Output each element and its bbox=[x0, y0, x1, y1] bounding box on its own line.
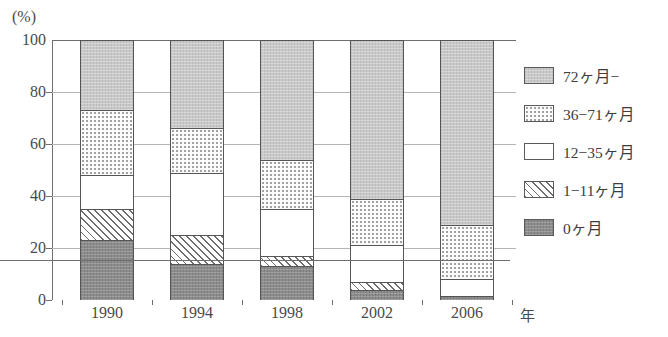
y-tick-label: 60 bbox=[2, 136, 46, 152]
bar-segment-2006-3 bbox=[441, 225, 493, 280]
bar-segment-2002-2 bbox=[351, 245, 403, 281]
x-axis-tick-labels: 1990 1994 1998 2002 2006 bbox=[52, 304, 516, 334]
x-tick-label-2006: 2006 bbox=[422, 304, 512, 322]
bar-1994 bbox=[170, 40, 224, 300]
y-tick-label: 80 bbox=[2, 84, 46, 100]
bar-1998 bbox=[260, 40, 314, 300]
legend-swatch-blank-white bbox=[524, 143, 554, 160]
plot-area bbox=[52, 40, 516, 300]
legend: 72ヶ月− 36−71ヶ月 12−35ヶ月 1−11ヶ月 0ヶ月 bbox=[524, 56, 666, 246]
legend-item-0: 0ヶ月 bbox=[524, 208, 666, 246]
bar-segment-1998-3 bbox=[261, 160, 313, 209]
x-axis-unit-label: 年 bbox=[520, 304, 535, 325]
bar-segment-2006-0 bbox=[441, 296, 493, 300]
bar-segment-2006-2 bbox=[441, 279, 493, 296]
bar-segment-1990-2 bbox=[81, 175, 133, 209]
bar-segment-2002-3 bbox=[351, 199, 403, 246]
legend-label: 72ヶ月− bbox=[563, 64, 619, 86]
y-tick-label: 0 bbox=[2, 292, 46, 308]
x-axis-line bbox=[0, 260, 510, 261]
legend-swatch-fine-dots bbox=[524, 105, 554, 122]
bar-segment-2002-1 bbox=[351, 282, 403, 290]
legend-swatch-solid-light-gray bbox=[524, 67, 554, 84]
bar-segment-1998-2 bbox=[261, 209, 313, 256]
bar-1990 bbox=[80, 40, 134, 300]
bar-segment-2006-4 bbox=[441, 40, 493, 225]
bar-segment-1990-3 bbox=[81, 110, 133, 175]
x-tick-label-1990: 1990 bbox=[62, 304, 152, 322]
bar-segment-2002-0 bbox=[351, 290, 403, 300]
legend-item-1-11: 1−11ヶ月 bbox=[524, 170, 666, 208]
x-tick-label-1994: 1994 bbox=[152, 304, 242, 322]
bar-segment-2002-4 bbox=[351, 40, 403, 199]
bar-segment-1998-4 bbox=[261, 40, 313, 160]
x-tick-label-1998: 1998 bbox=[242, 304, 332, 322]
bar-segment-1990-0 bbox=[81, 240, 133, 300]
bar-segment-1990-4 bbox=[81, 40, 133, 110]
legend-label: 12−35ヶ月 bbox=[563, 140, 635, 162]
bar-segment-1998-1 bbox=[261, 256, 313, 266]
legend-label: 0ヶ月 bbox=[563, 216, 603, 238]
legend-label: 36−71ヶ月 bbox=[563, 102, 635, 124]
legend-item-36-71: 36−71ヶ月 bbox=[524, 94, 666, 132]
x-tick-label-2002: 2002 bbox=[332, 304, 422, 322]
bar-segment-1994-2 bbox=[171, 173, 223, 235]
bar-segment-1994-4 bbox=[171, 40, 223, 128]
y-axis-tick-labels: 100 80 60 40 20 0 bbox=[0, 40, 46, 300]
legend-item-72plus: 72ヶ月− bbox=[524, 56, 666, 94]
legend-label: 1−11ヶ月 bbox=[563, 178, 626, 200]
y-tick-label: 20 bbox=[2, 240, 46, 256]
y-tick-label: 40 bbox=[2, 188, 46, 204]
legend-item-12-35: 12−35ヶ月 bbox=[524, 132, 666, 170]
legend-swatch-solid-dark-gray bbox=[524, 219, 554, 236]
bar-segment-1990-1 bbox=[81, 209, 133, 240]
bar-segment-1998-0 bbox=[261, 266, 313, 300]
x-tick-mark bbox=[512, 300, 513, 305]
y-tick-mark bbox=[46, 300, 52, 301]
bar-2006 bbox=[440, 40, 494, 300]
stacked-bar-chart: (%) 100 80 60 40 20 0 1990 1994 bbox=[0, 0, 668, 337]
bar-2002 bbox=[350, 40, 404, 300]
bar-segment-1994-3 bbox=[171, 128, 223, 172]
legend-swatch-diagonal-hatch bbox=[524, 181, 554, 198]
bar-segment-1994-0 bbox=[171, 264, 223, 300]
y-tick-label: 100 bbox=[2, 32, 46, 48]
y-axis-unit-label: (%) bbox=[12, 8, 36, 26]
